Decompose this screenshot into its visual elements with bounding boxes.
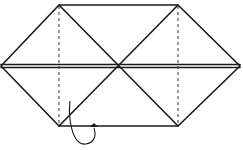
origami-diagram (0, 0, 243, 150)
paper-outline (1, 5, 240, 126)
arrowhead-icon (90, 123, 98, 127)
fold-behind-arrow-icon (70, 101, 96, 144)
diagram-canvas (0, 0, 243, 150)
